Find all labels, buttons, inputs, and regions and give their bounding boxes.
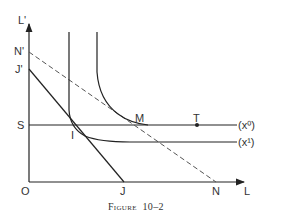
origin-label: O bbox=[21, 185, 30, 197]
label-j: J bbox=[120, 185, 126, 197]
x-axis-label: L bbox=[244, 185, 250, 197]
label-s: S bbox=[17, 119, 24, 131]
label-i: I bbox=[71, 129, 74, 141]
figure-caption: Figure 10–2 bbox=[108, 201, 164, 212]
label-n-prime: N' bbox=[14, 45, 24, 57]
label-j-prime: J' bbox=[15, 63, 23, 75]
label-m: M bbox=[135, 112, 144, 124]
label-n: N bbox=[212, 185, 220, 197]
label-x0: (x⁰) bbox=[238, 119, 255, 131]
caption-number: 10–2 bbox=[143, 201, 164, 212]
label-x1: (x¹) bbox=[238, 136, 255, 148]
y-axis-label: L' bbox=[18, 14, 26, 26]
label-t: T bbox=[193, 112, 200, 124]
figure-diagram: L' N' J' S I M T (x⁰) (x¹) O J N L Figur… bbox=[0, 0, 281, 220]
caption-prefix: Figure bbox=[108, 201, 137, 212]
